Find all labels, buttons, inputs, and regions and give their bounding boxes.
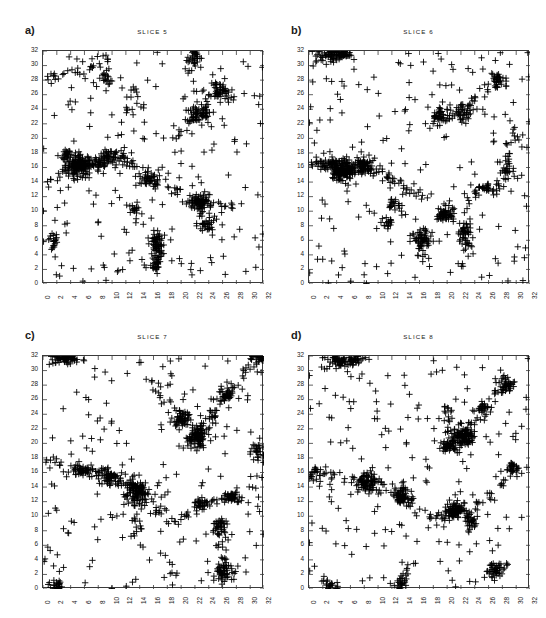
y-tick-label: 16 xyxy=(284,468,304,474)
y-tick-label: 18 xyxy=(284,454,304,460)
scatter-panel-d: d)SLICE 80246810121416182022242628303202… xyxy=(0,0,546,618)
y-tick-label: 2 xyxy=(284,570,304,576)
x-tick-label: 22 xyxy=(463,597,469,604)
y-tick-label: 14 xyxy=(284,483,304,489)
y-tick-label: 10 xyxy=(284,512,304,518)
y-tick-label: 26 xyxy=(284,395,304,401)
x-tick-label: 16 xyxy=(421,597,427,604)
y-tick-label: 4 xyxy=(284,556,304,562)
x-tick-label: 10 xyxy=(380,597,386,604)
x-tick-label: 18 xyxy=(435,597,441,604)
x-tick-label: 28 xyxy=(504,597,510,604)
data-points-d xyxy=(309,356,530,589)
x-tick-label: 24 xyxy=(476,597,482,604)
x-tick-label: 20 xyxy=(449,597,455,604)
y-tick-label: 0 xyxy=(284,585,304,591)
y-tick-label: 22 xyxy=(284,425,304,431)
y-tick-label: 6 xyxy=(284,541,304,547)
x-tick-label: 2 xyxy=(324,600,330,604)
panel-label-d: d) xyxy=(291,329,301,341)
x-tick-label: 0 xyxy=(311,600,317,604)
x-tick-label: 8 xyxy=(366,600,372,604)
x-tick-label: 26 xyxy=(490,597,496,604)
y-tick-label: 20 xyxy=(284,439,304,445)
scatter-canvas-d xyxy=(309,356,530,589)
x-tick-label: 6 xyxy=(352,600,358,604)
plot-area-d xyxy=(308,355,529,588)
x-tick-label: 32 xyxy=(532,597,538,604)
x-tick-label: 4 xyxy=(338,600,344,604)
x-tick-label: 30 xyxy=(518,597,524,604)
y-tick-label: 30 xyxy=(284,366,304,372)
y-tick-label: 32 xyxy=(284,352,304,358)
y-tick-label: 28 xyxy=(284,381,304,387)
panel-title-d: SLICE 8 xyxy=(308,333,529,340)
x-tick-label: 14 xyxy=(407,597,413,604)
figure-root: a)SLICE 50246810121416182022242628303202… xyxy=(0,0,546,618)
x-tick-label: 12 xyxy=(393,597,399,604)
y-tick-label: 24 xyxy=(284,410,304,416)
y-tick-label: 8 xyxy=(284,527,304,533)
y-tick-label: 12 xyxy=(284,497,304,503)
